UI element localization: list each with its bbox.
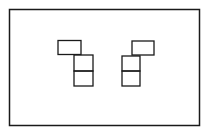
left-top-block [58, 41, 81, 55]
right-top-block [132, 41, 154, 55]
right-lower-block [122, 71, 140, 86]
diagram-canvas [0, 0, 204, 137]
left-figure [58, 41, 93, 87]
left-upper-block [74, 55, 93, 71]
outer-frame [10, 10, 200, 126]
left-lower-block [74, 71, 93, 86]
right-upper-block [122, 56, 140, 71]
right-figure [122, 41, 154, 86]
